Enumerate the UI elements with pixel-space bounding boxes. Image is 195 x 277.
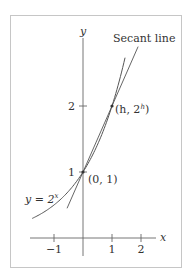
x-ticks: −112 <box>46 234 145 256</box>
x-axis-label: x <box>160 231 167 244</box>
y-tick-label: 1 <box>68 166 75 179</box>
point-h-marker <box>110 104 113 107</box>
y-ticks: 12 <box>68 100 87 179</box>
point-origin-marker <box>81 170 84 173</box>
secant-line-label: Secant line <box>113 32 175 45</box>
curve-label: y = 2x <box>24 192 58 206</box>
y-tick-label: 2 <box>68 100 75 113</box>
point-origin-label: (0, 1) <box>88 173 118 186</box>
x-tick-label: −1 <box>46 243 62 256</box>
x-tick-label: 2 <box>138 243 145 256</box>
y-axis-label: y <box>79 25 87 38</box>
point-h-label: (h, 2h) <box>115 103 149 116</box>
secant-line-diagram: x y −112 12 Secant line (h, 2h) (0, 1) y… <box>0 0 195 277</box>
x-tick-label: 1 <box>109 243 116 256</box>
